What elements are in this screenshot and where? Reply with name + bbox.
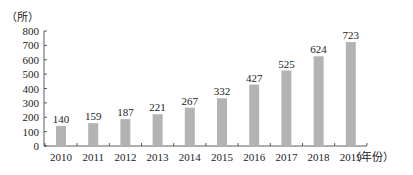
x-tick-label: 2010	[50, 151, 73, 163]
bar-value-label: 187	[117, 106, 134, 118]
bar-value-label: 624	[310, 43, 327, 55]
x-tick-label: 2016	[243, 151, 266, 163]
y-tick-label: 300	[23, 97, 40, 109]
bar	[281, 71, 291, 146]
y-axis-label: （所）	[6, 11, 39, 23]
bar-value-label: 267	[182, 95, 199, 107]
bar	[314, 56, 324, 146]
x-tick-label: 2017	[275, 151, 298, 163]
bar	[88, 123, 98, 146]
bar-chart: （所） 0100200300400500600700800 2010201120…	[0, 0, 413, 175]
bar	[153, 114, 163, 146]
x-tick-label: 2018	[308, 151, 331, 163]
bar-value-label: 159	[85, 110, 102, 122]
x-axis-label: （年份）	[350, 150, 394, 163]
bar	[120, 119, 130, 146]
y-tick-label: 800	[23, 25, 40, 37]
bars: 140159187221267332427525624723	[53, 29, 360, 146]
bar	[185, 108, 195, 146]
y-tick-label: 200	[23, 111, 40, 123]
bar	[249, 85, 259, 146]
x-tick-label: 2014	[179, 151, 202, 163]
x-tick-label: 2012	[114, 151, 136, 163]
bar-value-label: 221	[149, 101, 166, 113]
y-tick-label: 0	[34, 140, 40, 152]
bar	[56, 126, 66, 146]
y-tick-label: 500	[23, 68, 40, 80]
chart-canvas: （所） 0100200300400500600700800 2010201120…	[0, 0, 413, 175]
bar	[217, 98, 227, 146]
bar-value-label: 525	[278, 58, 295, 70]
bar-value-label: 723	[343, 29, 360, 41]
y-tick-label: 100	[23, 126, 40, 138]
bar-value-label: 332	[214, 85, 231, 97]
bar-value-label: 427	[246, 72, 263, 84]
bar	[346, 42, 356, 146]
y-tick-label: 600	[23, 54, 40, 66]
y-axis: 0100200300400500600700800	[23, 25, 48, 152]
bar-value-label: 140	[53, 113, 70, 125]
y-tick-label: 400	[23, 83, 40, 95]
x-tick-label: 2011	[82, 151, 104, 163]
x-tick-label: 2013	[147, 151, 170, 163]
y-tick-label: 700	[23, 39, 40, 51]
x-tick-label: 2015	[211, 151, 234, 163]
